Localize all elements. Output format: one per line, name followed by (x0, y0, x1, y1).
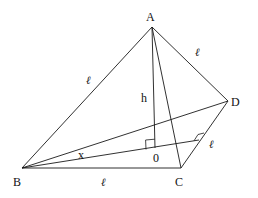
vertex-label-D: D (231, 95, 240, 109)
altitude-AO (152, 27, 155, 148)
length-label-AB: ℓ (86, 74, 91, 87)
edge-CD (181, 101, 228, 168)
angle-label-x: x (78, 148, 84, 162)
length-label-AD: ℓ (195, 46, 200, 59)
vertex-label-B: B (13, 175, 21, 189)
median-B-to-CD (22, 140, 199, 168)
point-label-O: 0 (153, 151, 159, 165)
tetrahedron-diagram: A B C D 0 ℓ ℓ ℓ ℓ h x (0, 0, 258, 198)
edge-AD (152, 27, 228, 101)
length-label-CD: ℓ (209, 138, 214, 151)
vertex-label-A: A (146, 10, 155, 24)
vertex-label-C: C (175, 175, 183, 189)
length-label-BC: ℓ (101, 176, 106, 189)
height-label-h: h (141, 91, 147, 105)
